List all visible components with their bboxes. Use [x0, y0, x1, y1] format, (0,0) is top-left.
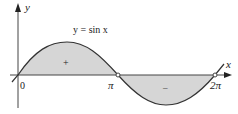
tick-label-origin: 0: [20, 80, 25, 91]
zero-marker-pi: [116, 73, 120, 77]
zero-marker-2pi: [213, 73, 217, 77]
x-axis-label: x: [225, 58, 231, 70]
tick-label-pi: π: [108, 79, 114, 91]
curve-label: y = sin x: [73, 24, 108, 35]
tick-label-2pi: 2π: [210, 79, 222, 91]
x-axis-arrow-icon: [224, 72, 232, 78]
sine-area-diagram: y x y = sin x 0 π 2π + –: [0, 0, 238, 114]
negative-sign: –: [162, 82, 168, 92]
y-axis-arrow-icon: [15, 3, 21, 12]
positive-sign: +: [63, 57, 69, 68]
y-axis-label: y: [24, 1, 30, 13]
